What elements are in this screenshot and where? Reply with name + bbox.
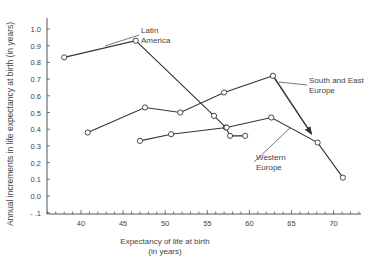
annotation-text: Europe [309,86,335,95]
annotation-text: Western [256,153,286,162]
annotation-text: Europe [256,163,282,172]
data-point-marker [137,138,142,143]
x-axis-label-line2: (in years) [148,247,182,256]
x-tick-label: 55 [203,219,211,228]
line-chart: - .10.00.10.20.30.40.50.60.70.80.91.0 40… [0,0,381,269]
y-tick-label: 0.7 [31,75,41,84]
data-point-marker [227,133,232,138]
y-tick-label: 0.5 [31,109,41,118]
y-tick-label: 0.8 [31,58,41,67]
x-axis: 40455055606570 [47,210,361,228]
y-tick-label: 0.6 [31,92,41,101]
y-tick-label: - .1 [30,209,41,218]
data-point-marker [133,38,138,43]
x-tick-label: 45 [119,219,127,228]
data-point-marker [222,90,227,95]
series-western-europe-line [140,118,343,178]
y-axis: - .10.00.10.20.30.40.50.60.70.80.91.0 [30,18,50,218]
series-latin-america-line [64,41,245,136]
annotation-text: South and East [309,76,364,85]
data-point-marker [269,115,274,120]
data-point-marker [85,130,90,135]
data-point-marker [211,113,216,118]
y-axis-label: Annual increments in life expectancy at … [5,22,15,226]
data-point-marker [62,55,67,60]
data-point-marker [243,133,248,138]
series-south-and-east-europe [85,73,312,135]
x-tick-label: 70 [329,219,337,228]
x-tick-label: 60 [245,219,253,228]
x-tick-label: 50 [161,219,169,228]
data-point-marker [142,105,147,110]
data-point-marker [178,110,183,115]
y-tick-label: 0.1 [31,175,41,184]
annotation-pointer [279,82,307,85]
series-lines [62,38,346,180]
annotation-south-and-east-europe: South and EastEurope [279,76,364,95]
x-axis-label-line1: Expectancy of life at birth [120,237,209,246]
data-point-marker [270,73,275,78]
y-tick-label: 0.0 [31,192,41,201]
series-latin-america [62,38,248,138]
annotation-text: Latin [141,26,158,35]
y-tick-label: 0.2 [31,159,41,168]
data-point-marker [168,132,173,137]
annotation-text: America [141,36,171,45]
y-tick-label: 0.4 [31,125,41,134]
data-point-marker [315,140,320,145]
y-tick-label: 0.9 [31,42,41,51]
data-point-marker [224,125,229,130]
series-western-europe [137,115,345,180]
x-tick-label: 65 [287,219,295,228]
y-tick-label: 1.0 [31,25,41,34]
y-tick-label: 0.3 [31,142,41,151]
data-point-marker [340,175,345,180]
x-tick-label: 40 [77,219,85,228]
annotation-western-europe: WesternEurope [254,128,290,172]
